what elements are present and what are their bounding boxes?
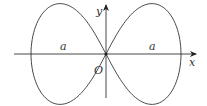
origin-point (104, 52, 107, 55)
lemniscate-diagram: y x O a a (0, 0, 207, 106)
left-loop-label: a (60, 40, 67, 53)
right-loop-label: a (149, 40, 156, 53)
y-axis-label: y (95, 5, 103, 18)
x-axis-label: x (189, 56, 196, 69)
origin-label: O (94, 64, 103, 77)
